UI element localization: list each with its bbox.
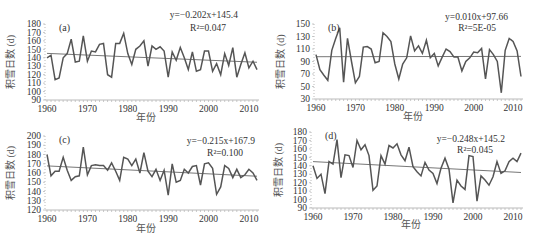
y-axis-title: 积雪日数 (d): [4, 146, 17, 200]
x-tick-label: 1970: [78, 214, 97, 224]
y-tick-label: 90: [301, 57, 311, 67]
x-tick-label: 1990: [425, 103, 444, 113]
x-tick-label: 1980: [384, 212, 403, 222]
x-tick-label: 1960: [38, 104, 57, 114]
trend-equation: y=−0.248x+145.2: [437, 134, 506, 144]
figure-grid: 9010011012013014015016017018019601970198…: [0, 0, 535, 248]
x-tick-label: 1990: [159, 104, 178, 114]
x-axis-title: 年份: [136, 222, 156, 234]
x-tick-label: 1960: [307, 103, 326, 113]
x-tick-label: 1970: [346, 103, 365, 113]
x-tick-label: 2010: [239, 214, 258, 224]
y-tick-label: 170: [27, 159, 42, 169]
panel-d: 9010011012013014015016017018019601970198…: [272, 127, 523, 230]
data-series-line: [47, 33, 257, 79]
x-tick-label: 2000: [464, 103, 483, 113]
x-tick-label: 1970: [78, 104, 97, 114]
x-tick-label: 2010: [504, 103, 523, 113]
x-tick-label: 1970: [344, 212, 363, 222]
x-tick-label: 2000: [199, 214, 218, 224]
y-tick-label: 160: [27, 168, 42, 178]
x-tick-label: 1960: [38, 214, 57, 224]
y-tick-label: 180: [293, 127, 308, 137]
x-tick-label: 2000: [199, 104, 218, 114]
y-axis-title: 积雪日数 (d): [4, 35, 17, 89]
r-squared: R²=0.045: [457, 145, 493, 155]
x-axis-title: 年份: [403, 110, 423, 122]
x-tick-label: 2010: [504, 212, 523, 222]
y-tick-label: 110: [296, 44, 310, 54]
data-series-line: [316, 28, 521, 93]
panel-label: (d): [325, 130, 337, 142]
x-tick-label: 1980: [118, 104, 137, 114]
x-tick-label: 1980: [118, 214, 137, 224]
trend-equation: y=−0.215x+167.9: [187, 136, 256, 146]
panel-c: 1201301401501601701801902001960197019801…: [4, 131, 259, 234]
r-squared: R²=5E-05: [458, 23, 496, 33]
y-axis-title: 积雪日数 (d): [274, 34, 287, 88]
x-axis-title: 年份: [401, 218, 421, 230]
x-tick-label: 2000: [464, 212, 483, 222]
y-tick-label: 180: [27, 19, 42, 29]
panel-b: 3050709011013015019601970198019902000201…: [274, 12, 523, 122]
trend-equation: y=0.010x+97.66: [445, 12, 508, 22]
y-tick-label: 50: [301, 82, 311, 92]
y-tick-label: 150: [296, 19, 311, 29]
y-tick-label: 190: [27, 140, 42, 150]
y-tick-label: 150: [27, 177, 42, 187]
panel-label: (a): [59, 22, 70, 34]
trend-equation: y=−0.202x+145.4: [170, 10, 239, 20]
panel-a: 9010011012013014015016017018019601970198…: [4, 10, 259, 123]
y-tick-label: 70: [301, 69, 311, 79]
y-tick-label: 200: [27, 131, 42, 141]
y-tick-label: 180: [27, 150, 42, 160]
y-axis-title: 积雪日数 (d): [272, 143, 285, 197]
x-tick-label: 1990: [159, 214, 178, 224]
trend-line: [47, 166, 257, 176]
x-tick-label: 2010: [239, 104, 258, 114]
y-tick-label: 130: [296, 32, 311, 42]
figure-canvas: 9010011012013014015016017018019601970198…: [0, 0, 535, 248]
panel-label: (c): [59, 134, 70, 146]
panel-label: (b): [328, 22, 340, 34]
y-tick-label: 130: [27, 196, 42, 206]
y-tick-label: 140: [27, 187, 42, 197]
x-axis-title: 年份: [136, 111, 156, 123]
r-squared: R²=0.100: [207, 148, 243, 158]
r-squared: R²=0.047: [190, 23, 226, 33]
x-tick-label: 1960: [304, 212, 323, 222]
x-tick-label: 1990: [424, 212, 443, 222]
